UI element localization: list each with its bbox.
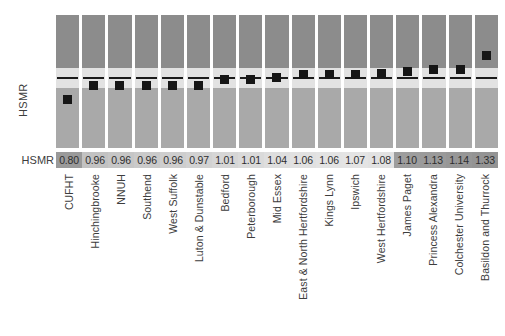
category-label-row: CUFHTHinchingbrookeNNUHSouthendWest Suff…: [56, 172, 498, 334]
band-upper: [82, 15, 105, 68]
funnel-column: [82, 15, 105, 148]
funnel-column: [292, 15, 315, 148]
band-lower: [449, 88, 472, 148]
funnel-column: [370, 15, 393, 148]
reference-line: [188, 77, 209, 79]
data-point-marker: [299, 70, 308, 79]
band-upper: [370, 15, 393, 68]
band-upper: [475, 15, 498, 68]
funnel-column: [135, 15, 158, 148]
band-lower: [475, 88, 498, 148]
category-label-cell: Ipswich: [342, 172, 368, 334]
category-label-cell: East & North Hertfordshire: [290, 172, 316, 334]
reference-line: [136, 77, 157, 79]
data-point-marker: [115, 81, 124, 90]
category-label-cell: Luton & Dunstable: [186, 172, 212, 334]
category-label: Kings Lynn: [323, 174, 335, 227]
hsmr-value-cell: 1.33: [472, 152, 498, 168]
band-upper: [161, 15, 184, 68]
data-point-marker: [89, 81, 98, 90]
category-label-cell: Southend: [134, 172, 160, 334]
reference-line: [423, 77, 444, 79]
funnel-column: [475, 15, 498, 148]
funnel-column: [161, 15, 184, 148]
data-point-marker: [403, 67, 412, 76]
category-label-cell: West Hertfordshire: [368, 172, 394, 334]
band-upper: [422, 15, 445, 68]
band-lower: [108, 88, 131, 148]
band-upper: [213, 15, 236, 68]
category-label: Hinchingbrooke: [89, 174, 101, 248]
category-label-cell: Bedford: [212, 172, 238, 334]
band-lower: [292, 88, 315, 148]
funnel-column: [108, 15, 131, 148]
hsmr-value-cell: 1.04: [264, 152, 290, 168]
band-lower: [213, 88, 236, 148]
plot-area: [56, 15, 498, 148]
category-label: West Suffolk: [167, 174, 179, 234]
band-upper: [292, 15, 315, 68]
category-label-cell: Kings Lynn: [316, 172, 342, 334]
category-label: Southend: [141, 174, 153, 220]
band-upper: [396, 15, 419, 68]
category-label: Princess Alexandra: [427, 174, 439, 266]
band-upper: [187, 15, 210, 68]
category-label-cell: Princess Alexandra: [420, 172, 446, 334]
hsmr-value-cell: 1.13: [420, 152, 446, 168]
band-lower: [135, 88, 158, 148]
funnel-column: [422, 15, 445, 148]
hsmr-value-cell: 1.06: [290, 152, 316, 168]
funnel-column: [56, 15, 79, 148]
band-lower: [396, 88, 419, 148]
hsmr-value-cell: 1.08: [368, 152, 394, 168]
data-point-marker: [429, 65, 438, 74]
band-lower: [265, 88, 288, 148]
band-upper: [56, 15, 79, 68]
category-label-cell: West Suffolk: [160, 172, 186, 334]
category-label: James Paget: [401, 174, 413, 236]
hsmr-value-cell: 0.97: [186, 152, 212, 168]
data-point-marker: [246, 75, 255, 84]
hsmr-value-cell: 0.96: [108, 152, 134, 168]
category-label: NNUH: [115, 174, 127, 205]
y-axis-label: HSMR: [14, 60, 32, 140]
category-label-cell: James Paget: [394, 172, 420, 334]
data-point-marker: [377, 69, 386, 78]
hsmr-value-row: 0.800.960.960.960.960.971.011.011.041.06…: [56, 152, 498, 168]
funnel-column: [213, 15, 236, 148]
category-label: West Hertfordshire: [375, 174, 387, 263]
reference-line: [397, 77, 418, 79]
reference-line: [450, 77, 471, 79]
hsmr-value-cell: 1.01: [238, 152, 264, 168]
funnel-column: [396, 15, 419, 148]
reference-line: [109, 77, 130, 79]
funnel-column: [239, 15, 262, 148]
category-label: Basildon and Thurrock: [479, 174, 491, 281]
band-lower: [422, 88, 445, 148]
hsmr-funnel-chart: HSMR HSMR 0.800.960.960.960.960.971.011.…: [0, 0, 505, 336]
hsmr-value-cell: 1.10: [394, 152, 420, 168]
band-upper: [318, 15, 341, 68]
category-label: Mid Essex: [271, 174, 283, 223]
band-upper: [135, 15, 158, 68]
data-point-marker: [325, 70, 334, 79]
value-row-label: HSMR: [14, 152, 54, 168]
band-upper: [265, 15, 288, 68]
funnel-column: [344, 15, 367, 148]
band-upper: [108, 15, 131, 68]
category-label: Luton & Dunstable: [193, 174, 205, 262]
funnel-column: [449, 15, 472, 148]
category-label: East & North Hertfordshire: [297, 174, 309, 300]
hsmr-value-cell: 0.96: [134, 152, 160, 168]
hsmr-value-cell: 1.06: [316, 152, 342, 168]
funnel-column: [318, 15, 341, 148]
band-lower: [344, 88, 367, 148]
band-lower: [370, 88, 393, 148]
data-point-marker: [351, 70, 360, 79]
data-point-marker: [142, 81, 151, 90]
data-point-marker: [220, 75, 229, 84]
band-upper: [344, 15, 367, 68]
category-label-cell: Hinchingbrooke: [82, 172, 108, 334]
category-label-cell: NNUH: [108, 172, 134, 334]
category-label: Peterborough: [245, 174, 257, 239]
